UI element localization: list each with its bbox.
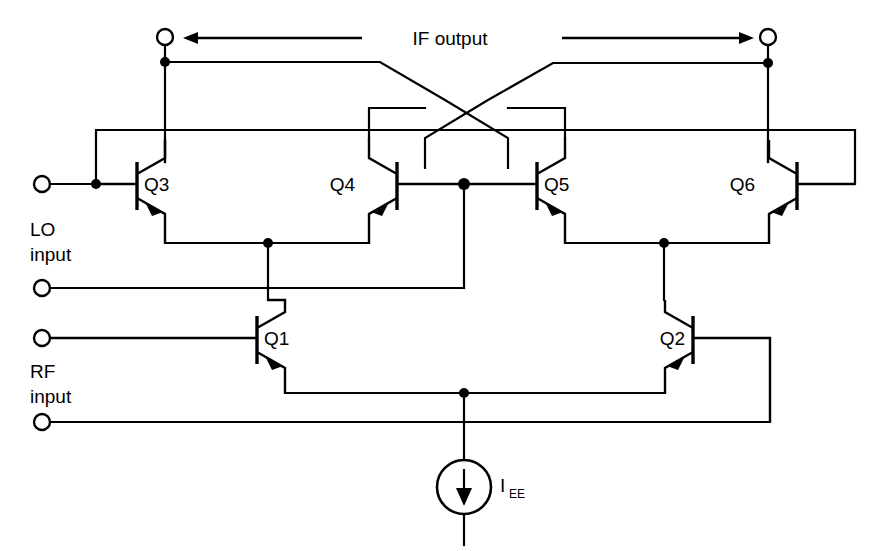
transistor-q6 xyxy=(769,140,855,243)
lo-input-label-line2: input xyxy=(30,244,72,265)
lo-minus-terminal[interactable] xyxy=(34,280,50,296)
schematic-canvas: Q3 Q4 Q5 xyxy=(0,0,888,551)
q56-emitter-rail xyxy=(565,243,769,300)
lo-input-label-line1: LO xyxy=(30,219,55,240)
current-source-label-subscript: EE xyxy=(509,487,525,501)
tail-rail xyxy=(285,393,665,460)
if-arrow-left xyxy=(183,32,362,44)
transistor-label-q4: Q4 xyxy=(330,174,356,195)
cross-couple-left-to-q5 xyxy=(165,62,508,168)
rf-minus-terminal[interactable] xyxy=(34,414,50,430)
rf-plus-terminal[interactable] xyxy=(34,330,50,346)
q4-collector-wire xyxy=(369,108,425,138)
node-q45-base xyxy=(458,178,470,190)
circuit-schematic-svg: Q3 Q4 Q5 xyxy=(0,0,888,551)
node-if-right xyxy=(763,58,773,68)
if-output-label: IF output xyxy=(413,28,489,49)
node-q56-emitter xyxy=(659,238,669,248)
if-arrow-right xyxy=(562,32,754,44)
transistor-label-q2: Q2 xyxy=(660,328,685,349)
transistor-q4 xyxy=(369,138,464,243)
node-if-left xyxy=(160,57,170,67)
transistor-label-q5: Q5 xyxy=(544,174,569,195)
current-source-iee xyxy=(437,460,491,545)
transistor-q1 xyxy=(50,300,285,393)
current-source-label: I xyxy=(500,475,505,496)
lo-plus-terminal[interactable] xyxy=(34,176,96,192)
node-lo-plus xyxy=(91,179,101,189)
if-output-right-terminal[interactable] xyxy=(760,29,776,63)
transistor-label-q3: Q3 xyxy=(144,174,169,195)
rf-input-label-line1: RF xyxy=(30,361,55,382)
transistor-q2 xyxy=(665,300,770,422)
q5-collector-wire xyxy=(508,108,565,138)
cross-couple-right-to-q4 xyxy=(425,63,768,168)
transistor-label-q6: Q6 xyxy=(730,174,755,195)
rf-input-label-line2: input xyxy=(30,386,72,407)
q34-emitter-rail xyxy=(165,243,369,300)
node-tail xyxy=(459,388,469,398)
transistor-label-q1: Q1 xyxy=(264,328,289,349)
node-q34-emitter xyxy=(263,238,273,248)
